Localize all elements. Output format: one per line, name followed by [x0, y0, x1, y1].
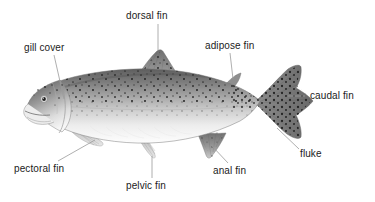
- leader-line-adipose-fin: [230, 53, 233, 79]
- label-pelvic-fin: pelvic fin: [126, 180, 166, 192]
- label-anal-fin: anal fin: [213, 165, 246, 177]
- leader-line-pectoral-fin: [58, 140, 95, 161]
- label-caudal-fin: caudal fin: [310, 90, 354, 102]
- fish-anatomy-diagram: dorsal fin gill cover adipose fin caudal…: [0, 0, 375, 202]
- label-dorsal-fin: dorsal fin: [126, 10, 168, 22]
- caudal-fin-shape: [250, 60, 320, 145]
- label-fluke: fluke: [300, 148, 322, 160]
- leader-line-anal-fin: [212, 146, 228, 163]
- label-gill-cover: gill cover: [24, 42, 64, 54]
- label-adipose-fin: adipose fin: [205, 40, 254, 52]
- label-pectoral-fin: pectoral fin: [14, 163, 64, 175]
- fish-head: [24, 80, 71, 133]
